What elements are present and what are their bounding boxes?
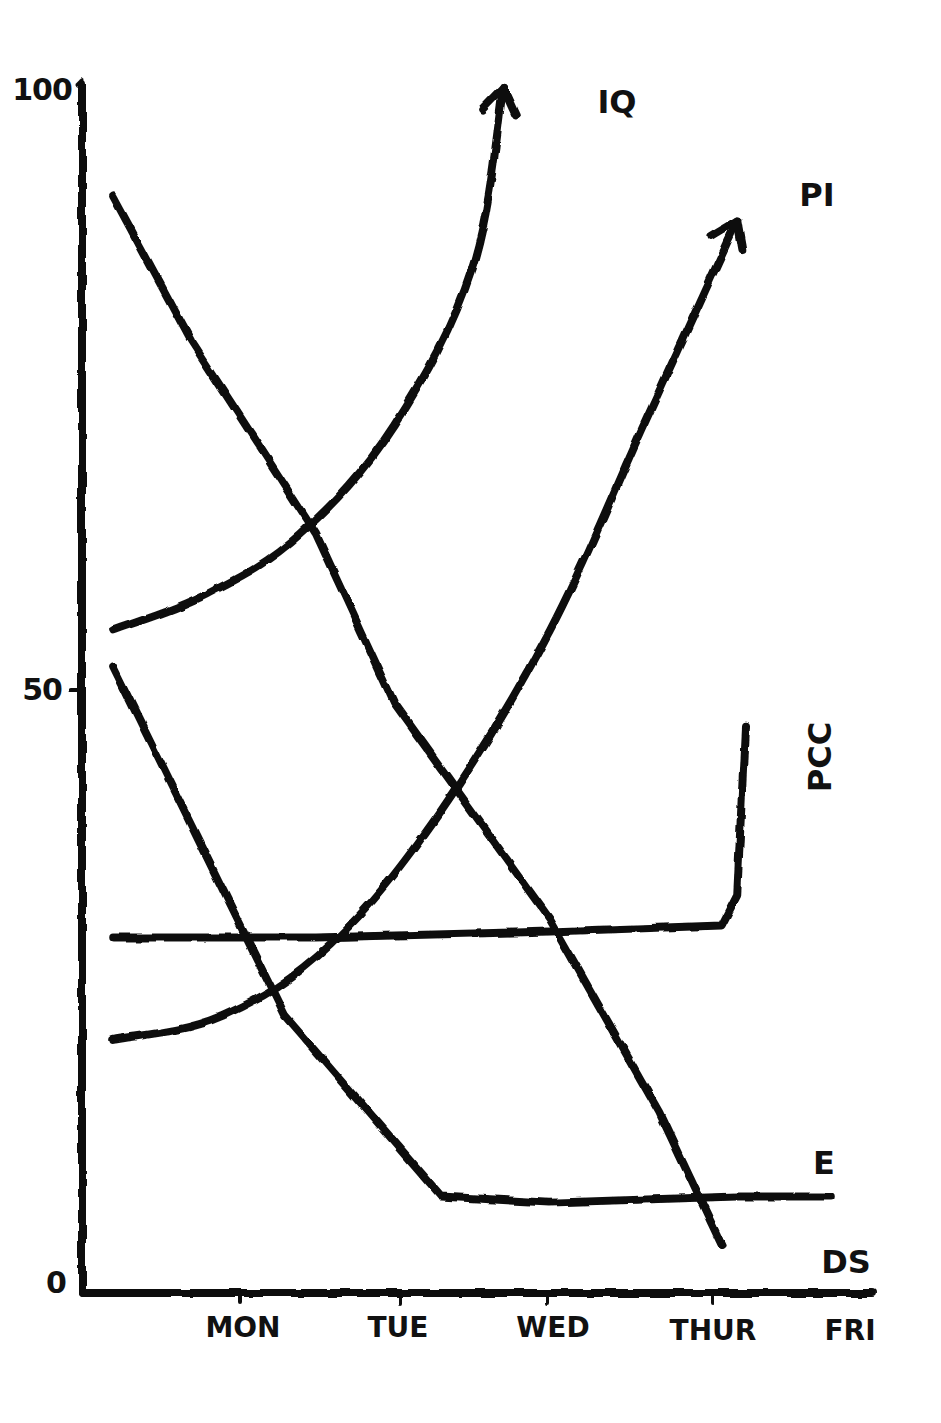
series-label-pcc: PCC: [804, 722, 836, 792]
y-tick-100: [78, 80, 82, 84]
y-tick-label-0: 0: [46, 1268, 66, 1298]
series-line-ds: [113, 196, 721, 1244]
series-lines: [113, 88, 831, 1245]
y-tick-label-100: 100: [12, 75, 72, 105]
x-tick-label-tue: TUE: [368, 1314, 429, 1342]
series-label-e: E: [813, 1147, 835, 1179]
x-tick-label-thur: THUR: [670, 1317, 757, 1345]
series-line-pi: [113, 221, 737, 1040]
series-label-iq: IQ: [597, 86, 636, 118]
series-line-iq: [113, 88, 503, 630]
y-tick-label-50: 50: [22, 675, 62, 705]
x-tick-label-fri: FRI: [824, 1317, 875, 1345]
x-tick-label-wed: WED: [516, 1314, 589, 1342]
hand-drawn-line-chart: 100 50 0 MON TUE WED THUR FRI IQ PI PCC …: [0, 0, 941, 1423]
series-label-ds: DS: [821, 1246, 871, 1278]
x-tick-label-mon: MON: [205, 1314, 280, 1342]
series-label-pi: PI: [799, 179, 834, 211]
